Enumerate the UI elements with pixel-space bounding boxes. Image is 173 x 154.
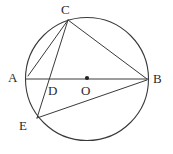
- point-label-b: B: [153, 72, 162, 85]
- point-label-c: C: [61, 3, 70, 16]
- center-point-o-dot: [85, 76, 89, 80]
- point-label-a: A: [8, 71, 17, 84]
- geometry-figure: A B C D E O: [0, 0, 173, 154]
- point-label-d: D: [48, 84, 57, 97]
- chord-cb: [68, 20, 147, 79]
- point-label-o: O: [81, 84, 90, 97]
- chord-ce: [37, 20, 68, 118]
- point-label-e: E: [19, 119, 27, 132]
